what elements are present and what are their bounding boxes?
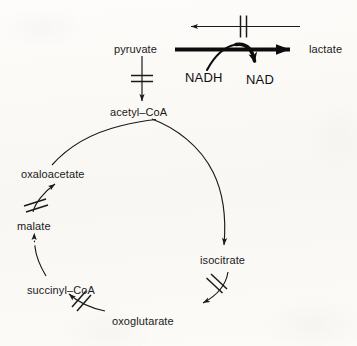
diagram-canvas: pyruvate lactate NADH NAD acetyl–CoA oxa… <box>0 0 357 346</box>
node-label-malate: malate <box>17 220 51 232</box>
node-label-lactate: lactate <box>309 43 342 55</box>
edge-pyruvate-to-acetyl-coa <box>131 56 153 101</box>
edge-isocitrate-to-oxoglutarate <box>203 272 228 303</box>
cycle-arc-oxoglutarate-succinyl <box>69 294 105 311</box>
node-label-acetyl-coa: acetyl–CoA <box>110 106 167 118</box>
cycle-arc-malate-oxaloacetate <box>33 184 55 212</box>
block-bar-icon <box>77 295 91 311</box>
block-bar-icon <box>24 199 46 206</box>
cofactor-arc-head <box>236 44 255 61</box>
node-label-succinyl-coa: succinyl–CoA <box>27 284 95 296</box>
cycle-arc-succinyl-malate-dashed <box>34 233 35 247</box>
node-label-oxaloacetate: oxaloacetate <box>21 168 85 180</box>
cycle-arc-succinyl-malate <box>35 247 46 276</box>
cycle-arc-isocitrate-oxoglutarate <box>203 272 228 303</box>
edge-oxaloacetate-to-acetyl-coa <box>52 120 156 166</box>
node-label-isocitrate: isocitrate <box>200 254 245 266</box>
edge-acetyl-coa-to-isocitrate <box>152 119 225 245</box>
cofactor-label-nad: NAD <box>246 73 274 87</box>
cycle-arc-top <box>52 120 156 166</box>
node-label-pyruvate: pyruvate <box>114 43 157 55</box>
node-label-oxoglutarate: oxoglutarate <box>112 315 174 327</box>
edge-malate-to-oxaloacetate <box>24 184 55 212</box>
edge-succinyl-coa-to-malate <box>34 233 46 276</box>
cofactor-label-nadh: NADH <box>185 71 223 85</box>
block-bar-icon <box>26 205 48 212</box>
cycle-arc-right <box>152 119 225 245</box>
block-bar-icon <box>207 278 223 293</box>
edge-lactate-to-pyruvate-feedback <box>191 16 300 38</box>
